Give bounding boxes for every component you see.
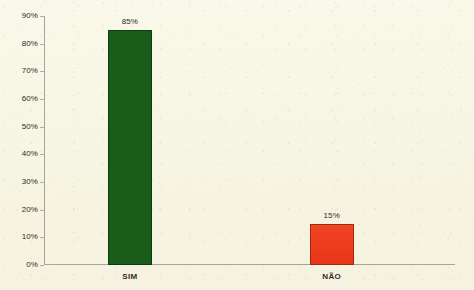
bar-value-label: 15% [302,211,362,220]
y-axis-tick-label-wrap: 50% [0,122,38,132]
y-axis-tick-label: 80% [4,39,38,48]
bar-chart: 0%10%20%30%40%50%60%70%80%90% 85%15% SIM… [0,0,474,290]
category-label-no: NÃO [292,272,372,281]
y-axis-tick-label: 60% [4,94,38,103]
y-axis-tick-label: 30% [4,177,38,186]
y-axis-tick-label-wrap: 0% [0,260,38,270]
y-axis-tick-label: 40% [4,149,38,158]
y-axis-tick-label: 20% [4,205,38,214]
bar-sim[interactable] [108,30,152,265]
y-axis-tick-label-wrap: 60% [0,94,38,104]
bar-value-label: 85% [100,17,160,26]
y-axis-tick-label: 10% [4,232,38,241]
y-axis-tick-label: 50% [4,122,38,131]
y-axis-tick-label-wrap: 30% [0,177,38,187]
y-axis-tick-label-wrap: 90% [0,11,38,21]
bar-no[interactable] [310,224,354,266]
plot-area [44,16,455,265]
y-axis-tick-label: 90% [4,11,38,20]
y-axis-tick [40,265,44,266]
y-axis-tick-label-wrap: 20% [0,205,38,215]
y-axis-tick-label-wrap: 80% [0,39,38,49]
category-label-sim: SIM [90,272,170,281]
y-axis-tick-label: 70% [4,66,38,75]
y-axis-tick-label-wrap: 10% [0,232,38,242]
y-axis-tick-label-wrap: 40% [0,149,38,159]
y-axis-tick-label-wrap: 70% [0,66,38,76]
y-axis-tick-label: 0% [4,260,38,269]
